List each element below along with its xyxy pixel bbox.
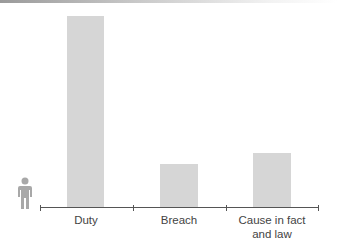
top-rule bbox=[0, 0, 337, 3]
x-label-duty: Duty bbox=[41, 213, 131, 227]
x-label-cause: Cause in fact and law bbox=[227, 213, 317, 241]
person-icon bbox=[17, 177, 33, 210]
x-axis-tick bbox=[133, 205, 134, 211]
x-axis bbox=[40, 207, 319, 208]
x-axis-tick bbox=[318, 205, 319, 211]
bar-duty bbox=[67, 16, 104, 207]
x-label-breach: Breach bbox=[134, 213, 224, 227]
x-label-cause-line2: and law bbox=[227, 227, 317, 241]
bar-breach bbox=[160, 164, 198, 207]
bar-cause bbox=[253, 153, 291, 207]
x-axis-tick bbox=[40, 205, 41, 211]
x-label-cause-line1: Cause in fact bbox=[227, 213, 317, 227]
x-axis-tick bbox=[226, 205, 227, 211]
